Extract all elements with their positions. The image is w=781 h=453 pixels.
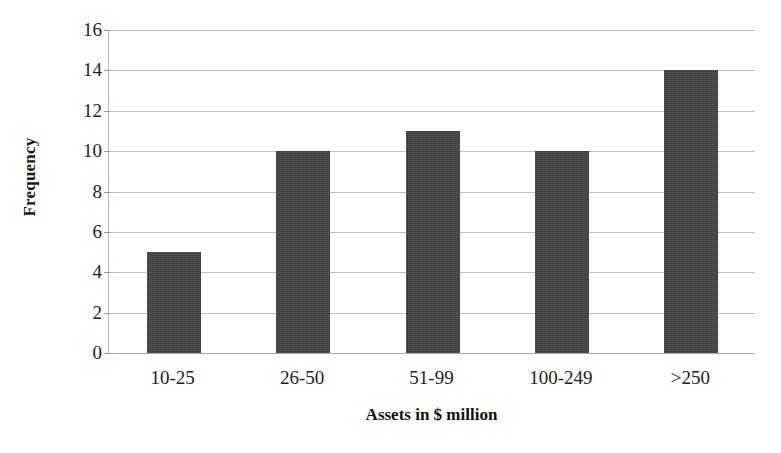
bar-26-50	[276, 151, 330, 353]
y-tick-label-4: 4	[56, 262, 102, 281]
gridline-0	[109, 353, 755, 354]
plot-area	[108, 30, 755, 353]
x-axis-tick-labels: 10-2526-5051-99100-249>250	[108, 366, 755, 396]
y-tick-label-12: 12	[56, 101, 102, 120]
y-axis-title-label: Frequency	[20, 137, 40, 216]
bar-chart: Frequency 0246810121416 10-2526-5051-991…	[0, 0, 781, 453]
x-tick-label-26-50: 26-50	[237, 366, 366, 390]
y-tickmark-0	[104, 353, 110, 354]
x-tick-label-51-99: 51-99	[367, 366, 496, 390]
bar->250	[664, 70, 718, 353]
y-tick-label-2: 2	[56, 303, 102, 322]
x-tick-label-100-249: 100-249	[496, 366, 625, 390]
bar-100-249	[535, 151, 589, 353]
x-tick-label->250: >250	[626, 366, 755, 390]
y-tick-label-14: 14	[56, 60, 102, 79]
bars	[109, 30, 755, 353]
y-axis-tick-labels: 0246810121416	[56, 0, 102, 453]
y-tick-label-16: 16	[56, 20, 102, 39]
y-tick-label-8: 8	[56, 182, 102, 201]
y-tick-label-0: 0	[56, 343, 102, 362]
x-axis-title: Assets in $ million	[108, 405, 755, 425]
y-tick-label-10: 10	[56, 141, 102, 160]
bar-10-25	[147, 252, 201, 353]
x-tick-label-10-25: 10-25	[108, 366, 237, 390]
y-axis-title: Frequency	[0, 0, 60, 353]
y-tick-label-6: 6	[56, 222, 102, 241]
bar-51-99	[406, 131, 460, 353]
